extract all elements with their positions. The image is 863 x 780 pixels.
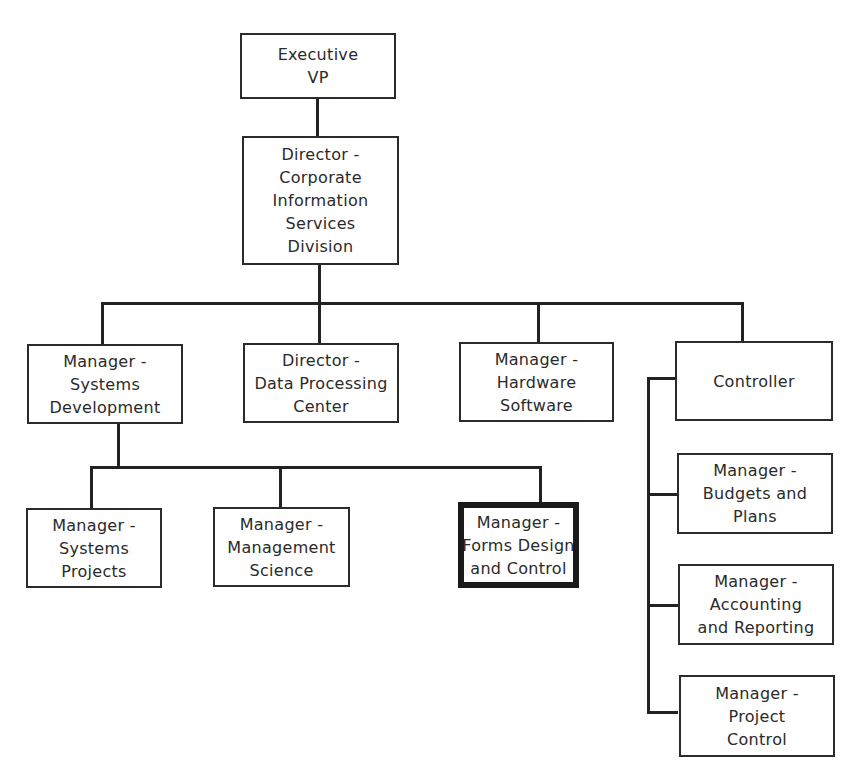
node-label-line: VP — [307, 66, 328, 89]
connector-to-accounting-reporting — [647, 604, 678, 607]
node-director-data-processing: Director - Data Processing Center — [243, 343, 399, 423]
node-manager-hardware-software: Manager - Hardware Software — [459, 342, 614, 422]
node-label-line: Manager - — [52, 514, 136, 537]
connector-to-systems-development — [101, 302, 104, 344]
node-label-line: Manager - — [714, 570, 798, 593]
connector-to-management-science — [279, 466, 282, 509]
node-manager-budgets-plans: Manager - Budgets and Plans — [677, 453, 833, 534]
connector-to-systems-projects — [90, 466, 93, 509]
node-label-line: Plans — [733, 505, 777, 528]
node-label-line: Services — [286, 212, 356, 235]
node-label-line: and Control — [470, 557, 566, 580]
node-label-line: Manager - — [63, 350, 147, 373]
connector-to-data-processing — [318, 302, 321, 344]
node-label-line: Manager - — [713, 459, 797, 482]
node-label-line: Science — [249, 559, 313, 582]
node-label-line: Software — [500, 394, 573, 417]
connector-director-down — [318, 264, 321, 304]
node-label-line: Information — [273, 189, 369, 212]
node-label-line: Controller — [713, 370, 795, 393]
node-label-line: Systems — [70, 373, 140, 396]
node-manager-management-science: Manager - Management Science — [213, 507, 350, 587]
node-label-line: Hardware — [497, 371, 577, 394]
node-label-line: Division — [288, 235, 354, 258]
node-label-line: Systems — [59, 537, 129, 560]
node-label-line: Forms Design — [462, 534, 575, 557]
connector-exec-to-director — [316, 98, 319, 136]
node-executive-vp: Executive VP — [240, 33, 396, 99]
node-manager-accounting-reporting: Manager - Accounting and Reporting — [678, 564, 834, 645]
connector-systems-development-down — [117, 423, 120, 468]
connector-to-controller — [741, 302, 744, 342]
node-label-line: Corporate — [279, 166, 362, 189]
connector-controller-side — [647, 377, 676, 380]
node-label-line: Manager - — [495, 348, 579, 371]
node-controller: Controller — [675, 341, 833, 421]
node-label-line: Project — [729, 705, 786, 728]
node-label-line: Executive — [278, 43, 359, 66]
node-label-line: Budgets and — [703, 482, 807, 505]
node-manager-systems-development: Manager - Systems Development — [27, 344, 183, 424]
node-label-line: Data Processing — [254, 372, 387, 395]
node-label-line: and Reporting — [698, 616, 815, 639]
connector-to-budgets-plans — [647, 493, 678, 496]
node-label-line: Management — [227, 536, 335, 559]
node-label-line: Development — [49, 396, 160, 419]
node-manager-project-control: Manager - Project Control — [679, 675, 835, 757]
node-label-line: Manager - — [715, 682, 799, 705]
node-label-line: Director - — [281, 143, 359, 166]
node-label-line: Control — [727, 728, 787, 751]
node-label-line: Center — [293, 395, 349, 418]
node-label-line: Accounting — [710, 593, 802, 616]
connector-level3-bar — [90, 466, 542, 469]
connector-level2-bar — [101, 302, 744, 305]
node-director-corporate-information-services: Director - Corporate Information Service… — [242, 136, 399, 265]
node-manager-forms-design-highlighted: Manager - Forms Design and Control — [458, 502, 579, 588]
connector-to-project-control — [647, 711, 678, 714]
connector-controller-spine — [647, 377, 650, 714]
node-label-line: Manager - — [477, 511, 561, 534]
node-label-line: Projects — [61, 560, 126, 583]
connector-to-hardware-software — [537, 302, 540, 344]
node-manager-systems-projects: Manager - Systems Projects — [26, 508, 162, 588]
node-label-line: Manager - — [240, 513, 324, 536]
node-label-line: Director - — [282, 349, 360, 372]
